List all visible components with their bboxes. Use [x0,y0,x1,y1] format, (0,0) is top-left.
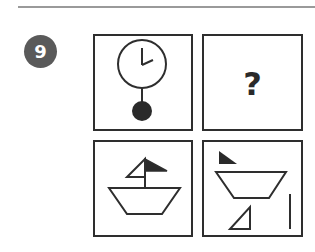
sailboat-parts-icon [204,142,301,235]
question-mark: ? [204,65,301,103]
panel-sailboat-parts [202,140,303,237]
pendulum-clock-icon [95,36,191,129]
white-triangle-icon [230,207,250,229]
question-number: 9 [34,41,47,62]
black-triangle-icon [219,151,237,164]
panel-pendulum-clock [93,34,193,131]
panel-answer-placeholder: ? [202,34,303,131]
question-number-badge: 9 [24,35,57,68]
panel-sailboat [93,140,193,237]
sailboat-icon [95,142,191,235]
top-divider [18,6,315,8]
trapezoid-icon [216,172,286,198]
